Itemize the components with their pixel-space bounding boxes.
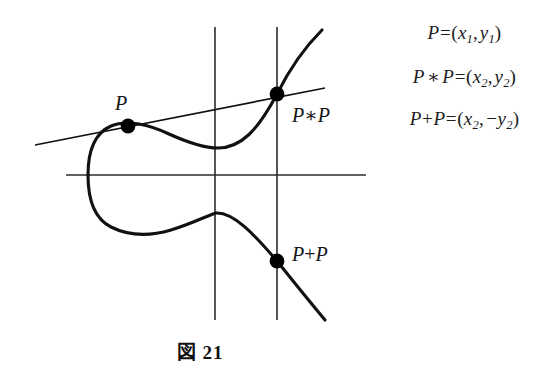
label-point-p-star-p: P∗P xyxy=(292,103,330,127)
point-p xyxy=(121,119,136,134)
equation-list: P=(x1, y1) P ∗ P=(x2, y2) P+P=(x2, −y2) xyxy=(372,22,557,133)
equation-p-plus-p: P+P=(x2, −y2) xyxy=(410,108,519,133)
label-point-p-plus-p: P+P xyxy=(292,243,328,266)
figure-page: P P∗P P+P P=(x1, y1) P ∗ P=(x2, y2) P+P=… xyxy=(0,0,557,376)
point-p-star-p xyxy=(270,87,285,102)
label-point-p: P xyxy=(115,92,127,115)
elliptic-curve-lower-branch xyxy=(88,175,325,320)
equation-p: P=(x1, y1) xyxy=(428,22,502,47)
figure-caption: 図 21 xyxy=(0,337,400,364)
point-p-plus-p xyxy=(270,254,285,269)
equation-p-star-p: P ∗ P=(x2, y2) xyxy=(413,65,516,91)
axes-group xyxy=(66,27,366,320)
